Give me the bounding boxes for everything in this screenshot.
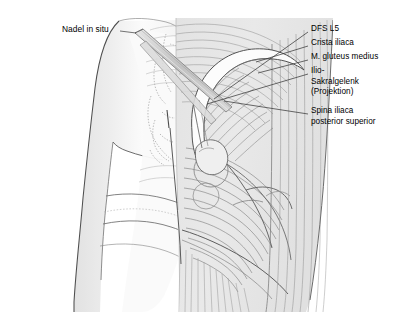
anatomy-figure: Nadel in situ DFS L5 Crista iliaca M. gl… <box>0 0 410 326</box>
label-spina-iliaca-line-2: posterior superior <box>311 117 376 128</box>
label-dfs-l5-line-1: DFS L5 <box>311 24 339 33</box>
label-m-gluteus-medius: M. gluteus medius <box>311 52 378 63</box>
label-ilio-sakralgelenk-line-3: (Projektion) <box>311 87 359 98</box>
label-spina-iliaca-posterior-superior: Spina iliaca posterior superior <box>311 106 376 127</box>
label-spina-iliaca-line-1: Spina iliaca <box>311 106 376 117</box>
label-ilio-sakralgelenk: Ilio- Sakralgelenk (Projektion) <box>311 66 359 98</box>
spina-iliaca-posterior-superior-bone <box>195 140 227 175</box>
label-m-gluteus-medius-line-1: M. gluteus medius <box>311 52 378 61</box>
label-ilio-sakralgelenk-line-2: Sakralgelenk <box>311 77 359 88</box>
label-ilio-sakralgelenk-line-1: Ilio- <box>311 66 359 77</box>
label-crista-iliaca: Crista iliaca <box>311 38 354 49</box>
label-nadel-in-situ: Nadel in situ <box>62 24 109 35</box>
label-dfs-l5: DFS L5 <box>311 24 339 35</box>
label-nadel-in-situ-text: Nadel in situ <box>62 24 109 34</box>
anatomy-illustration <box>0 0 410 326</box>
label-crista-iliaca-line-1: Crista iliaca <box>311 38 354 47</box>
